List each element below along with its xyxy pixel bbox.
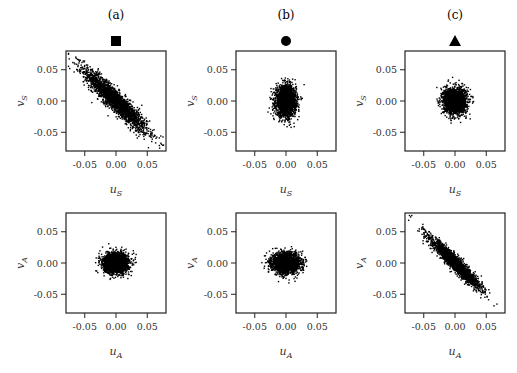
x-axis-label: uA (280, 345, 293, 360)
scatter-points (261, 246, 307, 284)
y-tick-label: -0.05 (373, 289, 397, 300)
y-tick-label: 0.05 (37, 64, 58, 75)
y-tick-label: -0.05 (373, 127, 397, 138)
y-tick-label: 0.05 (376, 226, 397, 237)
x-tick-label: 0.05 (137, 321, 158, 332)
y-axis-label: vA (353, 257, 368, 269)
x-tick-label: 0.00 (105, 321, 126, 332)
x-tick-label: 0.05 (137, 159, 158, 170)
x-tick-label: 0.00 (444, 321, 465, 332)
y-tick-label: 0.05 (376, 64, 397, 75)
panel-title: (b) (277, 8, 294, 22)
scatter-panel-b-bottom: -0.05-0.050.000.000.050.05uAvA (184, 213, 336, 360)
scatter-points (436, 77, 474, 124)
y-tick-label: 0.05 (207, 226, 228, 237)
x-axis-label: uA (110, 345, 123, 360)
scatter-panel-b-top: -0.05-0.050.000.000.050.05uSvS (184, 51, 336, 198)
x-tick-label: 0.05 (307, 321, 328, 332)
x-tick-label: -0.05 (243, 321, 267, 332)
y-tick-label: 0.05 (37, 226, 58, 237)
y-axis-label: vS (184, 95, 199, 107)
y-tick-label: 0.00 (207, 96, 228, 107)
x-tick-label: -0.05 (412, 321, 436, 332)
x-tick-label: 0.00 (275, 159, 296, 170)
y-tick-label: 0.00 (376, 96, 397, 107)
figure: (a)(b)(c)-0.05-0.050.000.000.050.05uSvS-… (0, 0, 517, 373)
y-axis-label: vS (353, 95, 368, 107)
y-tick-label: 0.05 (207, 64, 228, 75)
scatter-points (408, 215, 498, 307)
triangle-marker-icon (449, 35, 461, 46)
x-tick-label: 0.05 (476, 159, 497, 170)
panel-title: (a) (108, 8, 125, 22)
x-tick-label: -0.05 (412, 159, 436, 170)
square-marker-icon (111, 36, 121, 46)
x-tick-label: 0.00 (275, 321, 296, 332)
y-tick-label: 0.00 (376, 258, 397, 269)
x-tick-label: -0.05 (243, 159, 267, 170)
y-axis-label: vA (14, 257, 29, 269)
y-tick-label: -0.05 (34, 127, 58, 138)
x-axis-label: uS (110, 183, 123, 198)
scatter-panel-c-top: -0.05-0.050.000.000.050.05uSvS (353, 51, 505, 198)
x-axis-label: uA (449, 345, 462, 360)
y-axis-label: vS (14, 95, 29, 107)
y-tick-label: 0.00 (37, 258, 58, 269)
scatter-points (267, 77, 305, 128)
x-axis-label: uS (280, 183, 293, 198)
circle-marker-icon (281, 36, 291, 46)
y-tick-label: 0.00 (37, 96, 58, 107)
scatter-panel-a-top: -0.05-0.050.000.000.050.05uSvS (14, 51, 166, 198)
scatter-panel-a-bottom: -0.05-0.050.000.000.050.05uAvA (14, 213, 166, 360)
y-tick-label: -0.05 (34, 289, 58, 300)
y-tick-label: -0.05 (204, 127, 228, 138)
x-tick-label: 0.05 (307, 159, 328, 170)
panel-title: (c) (447, 8, 463, 22)
x-tick-label: -0.05 (73, 159, 97, 170)
x-axis-label: uS (449, 183, 462, 198)
x-tick-label: 0.05 (476, 321, 497, 332)
x-tick-label: -0.05 (73, 321, 97, 332)
x-tick-label: 0.00 (105, 159, 126, 170)
x-tick-label: 0.00 (444, 159, 465, 170)
scatter-points (68, 53, 164, 149)
scatter-panel-c-bottom: -0.05-0.050.000.000.050.05uAvA (353, 213, 505, 360)
y-axis-label: vA (184, 257, 199, 269)
y-tick-label: 0.00 (207, 258, 228, 269)
scatter-points (95, 243, 137, 280)
y-tick-label: -0.05 (204, 289, 228, 300)
